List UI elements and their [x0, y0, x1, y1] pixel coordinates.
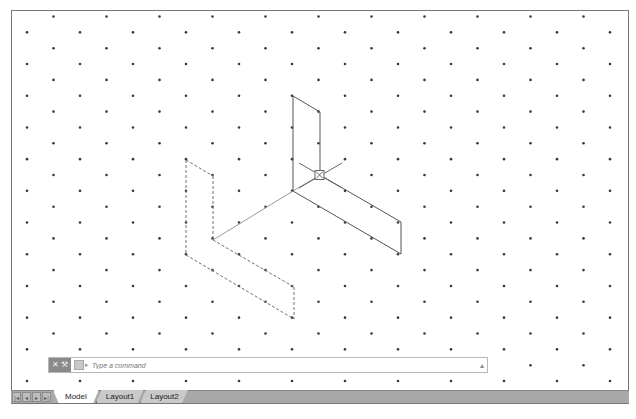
chevron-icon: ▸ [85, 361, 89, 369]
command-input[interactable] [92, 359, 480, 371]
last-tab-icon[interactable]: ▸| [42, 392, 51, 402]
command-line-grip[interactable]: ✕ ⚒ [49, 358, 71, 372]
next-tab-icon[interactable]: ▸ [32, 392, 41, 402]
tab-model[interactable]: Model [53, 390, 99, 403]
solid-lines [293, 96, 401, 254]
chevron-up-icon[interactable]: ▴ [480, 361, 484, 370]
layout-tab-bar: |◂ ◂ ▸ ▸| Model Layout1 Layout2 [11, 390, 629, 404]
first-tab-icon[interactable]: |◂ [12, 392, 21, 402]
command-line[interactable]: ✕ ⚒ ▸ ▴ [48, 357, 488, 373]
wrench-icon[interactable]: ⚒ [61, 361, 68, 369]
rubber-band-line [213, 191, 293, 240]
close-icon[interactable]: ✕ [52, 361, 59, 369]
drawing-canvas[interactable] [12, 11, 630, 391]
isometric-drawing [186, 96, 401, 319]
tab-layout2[interactable]: Layout2 [140, 390, 187, 403]
command-prompt-icon[interactable] [74, 360, 84, 370]
tab-layout1[interactable]: Layout1 [96, 390, 143, 403]
isometric-grid-dots [26, 15, 612, 382]
prev-tab-icon[interactable]: ◂ [22, 392, 31, 402]
drawing-viewport[interactable] [11, 10, 629, 390]
dashed-lines [186, 160, 294, 319]
